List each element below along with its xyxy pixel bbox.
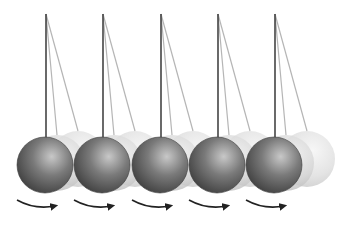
motion-arrows xyxy=(17,200,284,207)
ghost-strings xyxy=(46,14,307,135)
pendulum-ball xyxy=(17,137,73,193)
pendulum-strings xyxy=(46,14,275,138)
motion-arrow-icon xyxy=(17,200,55,207)
pendulum-ball xyxy=(189,137,245,193)
pendulum-scene xyxy=(0,0,350,226)
motion-arrow-icon xyxy=(246,200,284,207)
motion-arrow-icon xyxy=(189,200,227,207)
pendulum-ball xyxy=(74,137,130,193)
pendulum-ball xyxy=(132,137,188,193)
pendulum-illustration xyxy=(0,0,350,226)
pendulum-ball xyxy=(246,137,302,193)
motion-arrow-icon xyxy=(132,200,170,207)
motion-arrow-icon xyxy=(74,200,112,207)
pendulum-balls xyxy=(17,137,302,193)
